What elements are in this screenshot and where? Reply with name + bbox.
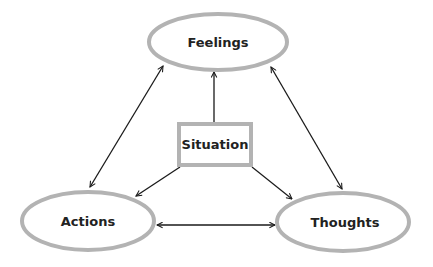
- node-situation: Situation: [179, 124, 251, 165]
- thoughts-label: Thoughts: [311, 215, 380, 230]
- node-actions: Actions: [22, 192, 154, 250]
- edge-situation-to-actions: [136, 167, 180, 196]
- cognitive-triangle-diagram: Feelings Situation Actions Thoughts: [0, 0, 433, 267]
- node-thoughts: Thoughts: [277, 193, 409, 251]
- edge-feelings-thoughts-bidirectional: [271, 67, 342, 189]
- situation-label: Situation: [182, 137, 249, 152]
- edge-situation-to-thoughts: [252, 167, 292, 199]
- edge-feelings-actions-bidirectional: [90, 66, 163, 187]
- feelings-label: Feelings: [187, 35, 248, 50]
- node-feelings: Feelings: [149, 14, 287, 70]
- actions-label: Actions: [61, 214, 116, 229]
